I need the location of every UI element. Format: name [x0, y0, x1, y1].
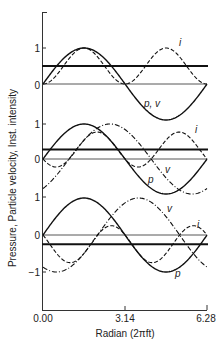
y-tick-label: 1: [34, 192, 40, 203]
y-tick-label: 0: [34, 230, 40, 241]
chart-canvas: [0, 0, 223, 346]
series-label-p: p: [175, 269, 181, 279]
curves: [42, 48, 208, 272]
y-tick-label: 1: [34, 43, 40, 54]
x-tick-label-0: 0.00: [33, 313, 52, 324]
series-label-p: p: [148, 175, 154, 185]
y-tick-label: 0: [34, 80, 40, 91]
series-label-i: i: [197, 220, 199, 230]
x-axis-label: Radian (2πft): [95, 328, 154, 339]
x-tick-label-2: 6.28: [196, 313, 215, 324]
series-label-pv: p, v: [144, 99, 160, 109]
series-label-v: v: [165, 165, 170, 175]
series-label-v: v: [167, 204, 172, 214]
y-tick-label: −1: [29, 267, 40, 278]
y-axis-label: Pressure, Particle velocity, Inst. inten…: [7, 89, 18, 267]
y-tick-label: 1: [34, 119, 40, 130]
y-tick-label: 0: [34, 154, 40, 165]
x-tick-label-1: 3.14: [115, 313, 134, 324]
series-label-i: i: [179, 38, 181, 48]
series-label-i: i: [195, 125, 197, 135]
